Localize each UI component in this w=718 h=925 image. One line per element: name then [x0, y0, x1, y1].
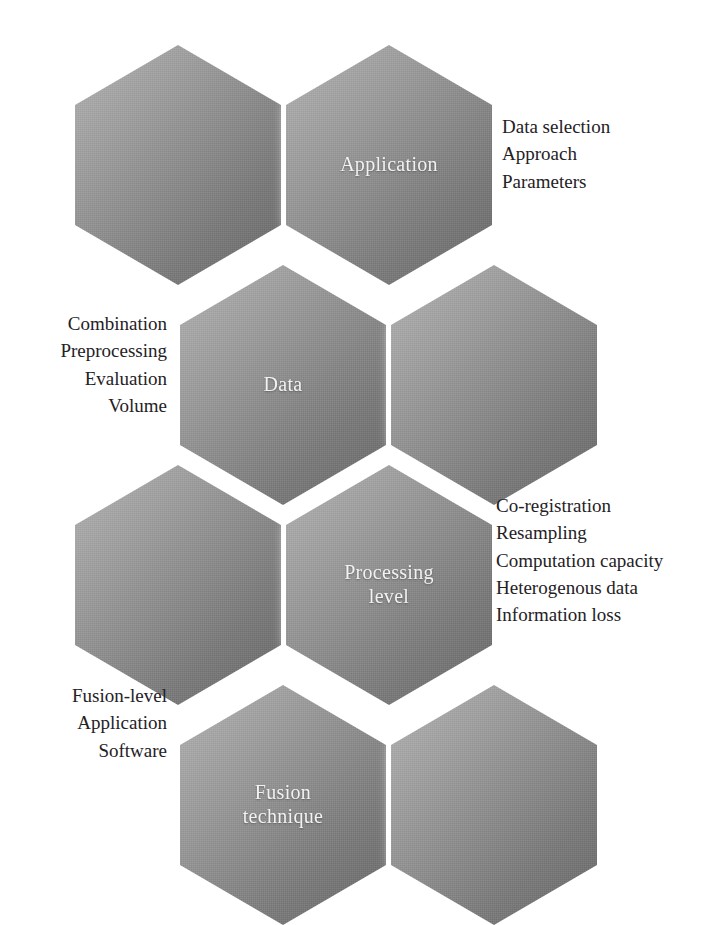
- note-fusion-technique: Fusion-level Application Software: [0, 682, 167, 764]
- hexagon-cell-row4-right[interactable]: [391, 685, 597, 925]
- hexagon-label-application: Application: [340, 153, 438, 177]
- hexagon-cell-fusion-technique[interactable]: Fusion technique: [180, 685, 386, 925]
- hexagon-label-processing-level: Processing level: [344, 561, 434, 608]
- hexagon-shape: Processing level: [286, 465, 492, 705]
- hexagon-cell-top-left[interactable]: [75, 45, 281, 285]
- hexagon-cell-row3-left[interactable]: [75, 465, 281, 705]
- hexagon-label-data: Data: [264, 373, 303, 397]
- note-application: Data selection Approach Parameters: [502, 113, 702, 195]
- note-data: Combination Preprocessing Evaluation Vol…: [0, 310, 167, 419]
- note-processing-level: Co-registration Resampling Computation c…: [496, 492, 718, 629]
- hexagon-shape: Application: [286, 45, 492, 285]
- hexagon-shape: [391, 685, 597, 925]
- hexagon-shape: Fusion technique: [180, 685, 386, 925]
- hexagon-cell-application[interactable]: Application: [286, 45, 492, 285]
- hexagon-cell-processing-level[interactable]: Processing level: [286, 465, 492, 705]
- hexagon-shape: [75, 465, 281, 705]
- hexagon-label-fusion-technique: Fusion technique: [243, 781, 323, 828]
- hexagon-shape: [75, 45, 281, 285]
